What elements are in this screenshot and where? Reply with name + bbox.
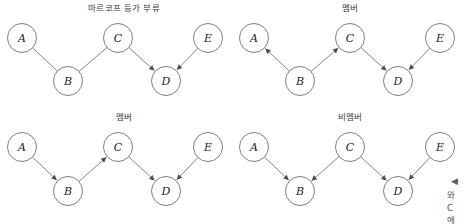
node-label: E [203, 32, 212, 45]
node-D: D [384, 67, 413, 96]
node-E: E [426, 24, 455, 53]
panel-title: 멤버 [116, 112, 132, 122]
panel-title: 비멤버 [338, 112, 363, 122]
node-label: E [435, 141, 444, 154]
node-A: A [240, 24, 269, 53]
node-label: A [17, 32, 26, 45]
node-label: B [63, 185, 72, 198]
node-label: D [393, 185, 403, 198]
node-label: C [346, 32, 355, 45]
node-A: A [8, 133, 37, 162]
panel-title: 멤버 [342, 3, 358, 13]
side-note-line-1: 와 [447, 190, 455, 200]
node-label: E [203, 141, 212, 154]
side-note-line-3: 에 [447, 215, 455, 224]
node-A: A [8, 24, 37, 53]
node-label: D [161, 75, 171, 88]
markov-equivalence-figure: 마르코프 등가 부류ABCDE멤버ABCDE멤버ABCDE비멤버ABCDE ◀와… [0, 0, 464, 224]
node-E: E [426, 133, 455, 162]
node-B: B [286, 177, 315, 206]
node-D: D [152, 177, 181, 206]
node-D: D [152, 67, 181, 96]
node-label: B [63, 75, 72, 88]
node-label: A [17, 141, 26, 154]
node-B: B [54, 67, 83, 96]
node-C: C [336, 133, 365, 162]
node-label: A [249, 32, 258, 45]
node-label: B [295, 75, 304, 88]
node-B: B [286, 67, 315, 96]
node-label: A [249, 141, 258, 154]
node-C: C [336, 24, 365, 53]
panel-title: 마르코프 등가 부류 [88, 3, 159, 13]
node-label: E [435, 32, 444, 45]
node-C: C [104, 133, 133, 162]
node-A: A [240, 133, 269, 162]
node-C: C [104, 24, 133, 53]
node-label: B [295, 185, 304, 198]
left-triangle-icon: ◀ [451, 176, 458, 186]
node-label: C [114, 32, 123, 45]
side-note-line-2: C [447, 203, 453, 213]
node-label: C [114, 141, 123, 154]
node-label: C [346, 141, 355, 154]
node-label: D [393, 75, 403, 88]
node-label: D [161, 185, 171, 198]
node-E: E [194, 133, 223, 162]
node-E: E [194, 24, 223, 53]
node-B: B [54, 177, 83, 206]
node-D: D [384, 177, 413, 206]
